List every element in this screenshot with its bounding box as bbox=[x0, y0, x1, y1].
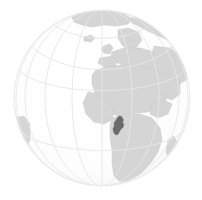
landmass-south-america bbox=[11, 116, 30, 164]
globe-locator-figure: Location of Cameroon on the globe Camero… bbox=[0, 0, 202, 200]
globe-map bbox=[0, 0, 202, 200]
